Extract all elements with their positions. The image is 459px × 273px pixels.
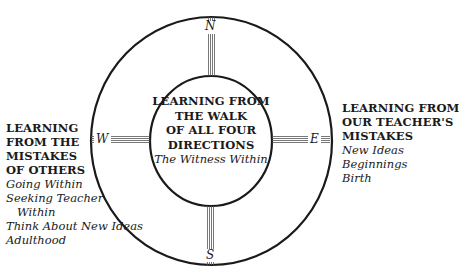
- center-heading-line: OF ALL FOUR: [150, 123, 272, 138]
- west-item: Going Within: [6, 177, 143, 191]
- center-heading-line: LEARNING FROM: [150, 94, 272, 109]
- east-heading-line: LEARNING FROM: [342, 101, 459, 115]
- east-item: Beginnings: [342, 157, 459, 171]
- east-spoke: [272, 137, 330, 143]
- east-heading-line: OUR TEACHER'S: [342, 115, 459, 129]
- east-item: New Ideas: [342, 143, 459, 157]
- west-heading-line: MISTAKES: [6, 149, 143, 163]
- north-label: N: [205, 19, 216, 33]
- east-item: Birth: [342, 171, 459, 185]
- center-heading-line: DIRECTIONS: [150, 138, 272, 153]
- west-item: Think About New Ideas: [6, 219, 143, 233]
- south-label: S: [206, 248, 214, 262]
- center-text: LEARNING FROM THE WALK OF ALL FOUR DIREC…: [150, 94, 272, 167]
- west-heading-line: OF OTHERS: [6, 163, 143, 177]
- west-item: Adulthood: [6, 233, 143, 247]
- west-item: Within: [6, 205, 143, 219]
- center-subtitle: The Witness Within: [150, 152, 272, 167]
- east-heading-line: MISTAKES: [342, 129, 459, 143]
- center-heading-line: THE WALK: [150, 109, 272, 124]
- west-item: Seeking Teacher: [6, 191, 143, 205]
- west-text: LEARNING FROM THE MISTAKES OF OTHERS Goi…: [6, 121, 143, 247]
- east-label: E: [310, 132, 319, 146]
- east-text: LEARNING FROM OUR TEACHER'S MISTAKES New…: [342, 101, 459, 185]
- west-heading-line: FROM THE: [6, 135, 143, 149]
- west-heading-line: LEARNING: [6, 121, 143, 135]
